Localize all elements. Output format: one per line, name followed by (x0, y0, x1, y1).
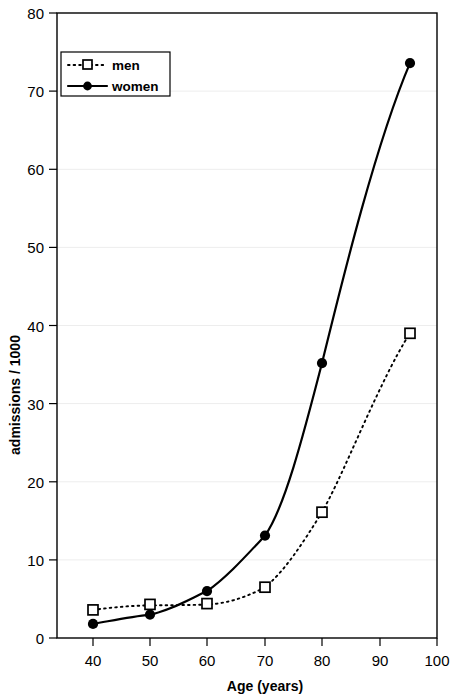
ytick-label-50: 50 (27, 239, 44, 256)
x-axis-ticks (93, 638, 437, 646)
data-point-men-50 (145, 599, 155, 609)
data-point-women-70 (260, 531, 270, 541)
ytick-label-60: 60 (27, 161, 44, 178)
data-point-men-60 (202, 599, 212, 609)
xtick-label-70: 70 (257, 652, 274, 669)
xtick-label-100: 100 (424, 652, 449, 669)
data-point-women-40 (88, 619, 98, 629)
legend-men-marker-icon (83, 60, 92, 69)
ytick-label-40: 40 (27, 318, 44, 335)
ytick-label-30: 30 (27, 396, 44, 413)
admissions-by-age-line-chart: 80 70 60 50 40 30 20 10 0 40 50 60 70 80 (0, 0, 456, 698)
chart-container: 80 70 60 50 40 30 20 10 0 40 50 60 70 80 (0, 0, 456, 698)
xtick-label-60: 60 (199, 652, 216, 669)
xtick-label-50: 50 (142, 652, 159, 669)
data-point-men-80 (317, 507, 327, 517)
x-axis-tick-labels: 40 50 60 70 80 90 100 (85, 652, 450, 669)
ytick-label-80: 80 (27, 5, 44, 22)
data-point-women-95 (405, 58, 415, 68)
ytick-label-70: 70 (27, 83, 44, 100)
y-axis-tick-labels: 80 70 60 50 40 30 20 10 0 (27, 5, 44, 647)
data-point-men-95 (405, 328, 415, 338)
xtick-label-40: 40 (85, 652, 102, 669)
y-axis-title: admissions / 1000 (7, 335, 23, 455)
x-axis-title: Age (years) (227, 678, 303, 694)
y-axis-ticks (49, 13, 57, 638)
xtick-label-80: 80 (314, 652, 331, 669)
data-point-men-70 (260, 582, 270, 592)
data-point-women-60 (202, 586, 212, 596)
data-point-men-40 (88, 605, 98, 615)
legend-women-label: women (111, 79, 159, 94)
legend: men women (61, 52, 170, 96)
legend-women-marker-icon (83, 82, 92, 91)
legend-men-label: men (112, 58, 140, 73)
ytick-label-0: 0 (36, 630, 44, 647)
data-point-women-80 (317, 358, 327, 368)
ytick-label-10: 10 (27, 552, 44, 569)
data-point-women-50 (145, 610, 155, 620)
xtick-label-90: 90 (372, 652, 389, 669)
ytick-label-20: 20 (27, 474, 44, 491)
